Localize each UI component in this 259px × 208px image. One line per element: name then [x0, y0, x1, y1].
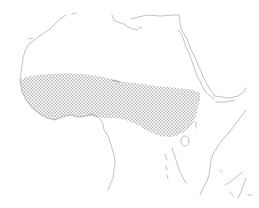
sahel-shaded-region [20, 73, 200, 137]
africa-map [0, 0, 259, 208]
map-canvas [0, 0, 259, 208]
